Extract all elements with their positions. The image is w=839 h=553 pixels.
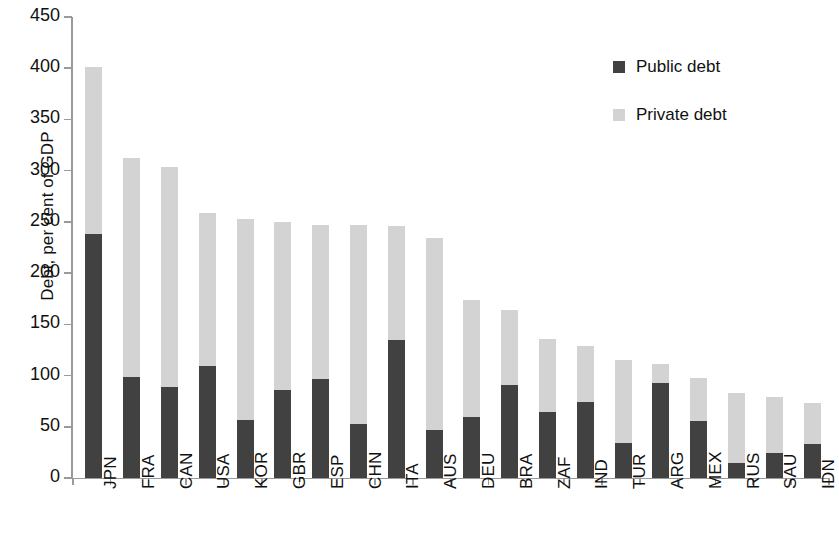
bar-segment-public-debt (690, 421, 707, 478)
x-label-arg: ARG (668, 452, 688, 489)
legend-item-public-debt: Public debt (613, 57, 727, 77)
bar-segment-private-debt (539, 339, 556, 413)
x-label-can: CAN (177, 453, 197, 490)
legend-swatch-icon (613, 61, 625, 73)
bar-segment-private-debt (652, 364, 669, 382)
y-tick-label: 300 (30, 159, 60, 180)
bar-segment-private-debt (161, 167, 178, 387)
y-tick-mark (64, 119, 72, 121)
bar-segment-public-debt (350, 424, 367, 478)
legend-label: Private debt (636, 105, 727, 125)
bar-segment-private-debt (804, 403, 821, 444)
bar-segment-public-debt (85, 234, 102, 478)
bar-segment-private-debt (766, 397, 783, 453)
x-label-kor: KOR (252, 452, 272, 489)
bar-deu (463, 300, 480, 478)
legend-label: Public debt (636, 57, 720, 77)
y-tick-mark (64, 170, 72, 172)
bar-segment-public-debt (161, 387, 178, 478)
bar-segment-private-debt (728, 393, 745, 463)
y-tick-mark (64, 426, 72, 428)
bar-bra (501, 310, 518, 478)
bar-segment-private-debt (199, 213, 216, 367)
x-label-zaf: ZAF (555, 456, 575, 489)
bar-segment-private-debt (426, 238, 443, 430)
bar-segment-private-debt (501, 310, 518, 385)
y-tick-label: 200 (30, 261, 60, 282)
x-label-tur: TUR (630, 453, 650, 489)
y-tick-mark (64, 477, 72, 479)
y-tick-mark (64, 272, 72, 274)
y-tick-label: 50 (40, 415, 60, 436)
x-label-chn: CHN (366, 452, 386, 489)
x-label-bra: BRA (517, 453, 537, 489)
x-label-jpn: JPN (101, 456, 121, 489)
bar-can (161, 167, 178, 478)
x-label-aus: AUS (441, 453, 461, 489)
bar-segment-private-debt (237, 219, 254, 420)
bar-segment-private-debt (388, 226, 405, 340)
bar-fra (123, 158, 140, 478)
bar-esp (312, 225, 329, 478)
x-label-fra: FRA (139, 454, 159, 489)
bar-gbr (274, 222, 291, 478)
y-tick-mark (64, 324, 72, 326)
bar-segment-public-debt (312, 379, 329, 478)
bar-segment-public-debt (274, 390, 291, 478)
bar-segment-private-debt (85, 67, 102, 234)
bar-segment-private-debt (274, 222, 291, 390)
bar-segment-public-debt (728, 463, 745, 478)
bar-usa (199, 213, 216, 478)
bar-mex (690, 378, 707, 478)
bar-segment-public-debt (539, 412, 556, 478)
bar-segment-public-debt (501, 385, 518, 478)
x-label-rus: RUS (744, 453, 764, 490)
legend-swatch-icon (613, 109, 625, 121)
y-tick-mark (64, 67, 72, 69)
x-label-idn: IDN (819, 459, 839, 489)
bar-segment-public-debt (463, 417, 480, 478)
y-tick-label: 250 (30, 210, 60, 231)
bar-segment-private-debt (577, 346, 594, 402)
bar-kor (237, 219, 254, 478)
bar-segment-private-debt (463, 300, 480, 417)
bar-segment-private-debt (312, 225, 329, 379)
bar-segment-public-debt (388, 340, 405, 478)
x-tick-mark (72, 478, 74, 485)
bar-zaf (539, 339, 556, 478)
x-label-mex: MEX (706, 452, 726, 489)
y-tick-mark (64, 221, 72, 223)
x-label-gbr: GBR (290, 452, 310, 489)
bar-aus (426, 238, 443, 478)
y-tick-label: 150 (30, 312, 60, 333)
x-label-sau: SAU (781, 453, 801, 489)
bar-segment-private-debt (690, 378, 707, 421)
bar-segment-public-debt (652, 383, 669, 478)
x-label-ita: ITA (403, 463, 423, 489)
x-label-deu: DEU (479, 453, 499, 490)
x-label-ind: IND (592, 459, 612, 489)
y-tick-label: 350 (30, 107, 60, 128)
x-label-usa: USA (214, 453, 234, 489)
bar-rus (728, 393, 745, 478)
bar-segment-private-debt (350, 225, 367, 424)
y-tick-mark (64, 375, 72, 377)
x-label-esp: ESP (328, 454, 348, 489)
bar-ita (388, 226, 405, 478)
bar-chn (350, 225, 367, 478)
bar-arg (652, 364, 669, 478)
chart-legend: Public debtPrivate debt (613, 57, 727, 153)
y-tick-label: 400 (30, 56, 60, 77)
bar-segment-private-debt (123, 158, 140, 376)
bar-segment-public-debt (123, 377, 140, 478)
bar-jpn (85, 67, 102, 478)
legend-item-private-debt: Private debt (613, 105, 727, 125)
y-tick-mark (64, 16, 72, 18)
bar-segment-private-debt (615, 360, 632, 443)
y-tick-label: 0 (50, 466, 60, 487)
y-tick-label: 450 (30, 5, 60, 26)
y-tick-label: 100 (30, 364, 60, 385)
